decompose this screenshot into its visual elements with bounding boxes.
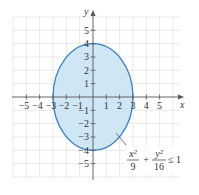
x-tick-label: −2 (59, 100, 70, 111)
fraction1-denominator: 9 (131, 161, 136, 172)
fraction2-denominator: 16 (154, 161, 164, 172)
y-tick-label: 5 (84, 25, 89, 36)
y-tick-label: −4 (78, 145, 89, 156)
x-tick-label: 3 (131, 100, 136, 111)
x-tick-label: 2 (117, 100, 122, 111)
y-tick-label: 1 (84, 78, 89, 89)
y-tick-label: −1 (78, 105, 89, 116)
x-tick-label: 4 (144, 100, 149, 111)
x-tick-label: 1 (104, 100, 109, 111)
fraction1-numerator: x² (128, 148, 137, 159)
y-tick-label: 4 (84, 38, 89, 49)
inequality-label: x² 9 + y² 16 ≤ 1 (124, 146, 182, 174)
plus-sign: + (143, 154, 149, 165)
x-tick-label: −5 (19, 100, 30, 111)
y-axis-arrow-icon (91, 10, 96, 16)
y-tick-label: 3 (84, 51, 89, 62)
y-tick-label: −2 (78, 118, 89, 129)
inequality-relation: ≤ 1 (168, 154, 181, 165)
fraction2-numerator: y² (154, 148, 163, 159)
ellipse-region-diagram: −5 −4 −3 −2 −1 1 2 3 4 5 5 4 3 2 1 −1 −2… (0, 0, 199, 195)
x-tick-label: −3 (46, 100, 57, 111)
y-tick-label: −5 (78, 158, 89, 169)
y-tick-label: −3 (78, 131, 89, 142)
x-tick-label: 5 (157, 100, 162, 111)
y-tick-label: 2 (84, 65, 89, 76)
y-axis-label: y (83, 6, 89, 17)
x-axis-label: x (179, 99, 185, 110)
x-tick-label: −4 (32, 100, 43, 111)
